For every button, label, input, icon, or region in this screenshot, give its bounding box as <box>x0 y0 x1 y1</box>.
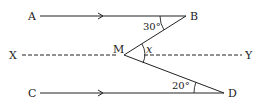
angle-label-30: 30° <box>143 21 161 32</box>
angle-label-x: x <box>146 43 153 56</box>
angle-arc-m <box>142 44 145 63</box>
parallel-lines-diagram: A B M X Y C D 30° 20° x <box>0 0 260 103</box>
point-label-y: Y <box>244 49 253 62</box>
angle-label-20: 20° <box>172 80 190 91</box>
point-label-d: D <box>228 87 237 100</box>
point-label-a: A <box>27 10 37 23</box>
angle-arc-d <box>194 82 196 93</box>
point-label-c: C <box>28 87 36 100</box>
point-label-b: B <box>190 10 198 23</box>
point-label-m: M <box>113 43 124 56</box>
point-label-x: X <box>9 49 17 62</box>
